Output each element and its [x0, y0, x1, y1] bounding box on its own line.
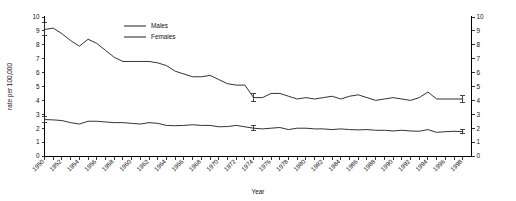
y-tick-label-left: 4	[36, 97, 40, 104]
y-tick-label-right: 1	[477, 138, 481, 145]
x-tick-label: 1974	[240, 157, 255, 172]
y-tick-label-right: 7	[477, 55, 481, 62]
y-tick-label-left: 3	[36, 111, 40, 118]
x-tick-label: 1998	[449, 157, 464, 172]
y-tick-label-left: 6	[36, 69, 40, 76]
x-tick-label: 1990	[379, 157, 394, 172]
x-tick-label: 1966	[170, 157, 185, 172]
x-tick-label: 1982	[309, 157, 324, 172]
x-tick-label: 1962	[135, 157, 150, 172]
x-tick-label: 1994	[414, 157, 429, 172]
legend-label-females: Females	[151, 33, 176, 40]
x-tick-label: 1960	[118, 157, 133, 172]
y-tick-label-left: 2	[36, 125, 40, 132]
x-tick-label: 1972	[222, 157, 237, 172]
x-axis-title: Year	[252, 188, 266, 195]
series-line-males	[45, 28, 463, 100]
y-tick-label-right: 6	[477, 69, 481, 76]
y-tick-label-right: 2	[477, 125, 481, 132]
y-tick-label-right: 10	[477, 13, 485, 20]
line-chart: 0011223344556677889910101950195219541956…	[0, 0, 516, 201]
x-tick-label: 1952	[48, 157, 63, 172]
x-tick-label: 1958	[100, 157, 115, 172]
x-tick-label: 1980	[292, 157, 307, 172]
y-tick-label-right: 4	[477, 97, 481, 104]
x-tick-label: 1976	[257, 157, 272, 172]
x-tick-label: 1956	[83, 157, 98, 172]
x-tick-label: 1988	[362, 157, 377, 172]
y-tick-label-left: 7	[36, 55, 40, 62]
chart-canvas: 0011223344556677889910101950195219541956…	[0, 0, 516, 201]
x-tick-label: 1970	[205, 157, 220, 172]
x-tick-label: 1986	[344, 157, 359, 172]
x-tick-label: 1984	[327, 157, 342, 172]
y-tick-label-right: 0	[477, 152, 481, 159]
y-tick-label-right: 5	[477, 83, 481, 90]
y-axis-title: rate per 100,000	[6, 63, 14, 110]
x-tick-label: 1954	[65, 157, 80, 172]
legend-label-males: Males	[151, 22, 168, 29]
y-tick-label-right: 9	[477, 27, 481, 34]
y-tick-label-left: 9	[36, 27, 40, 34]
x-tick-label: 1950	[31, 157, 46, 172]
y-tick-label-left: 5	[36, 83, 40, 90]
y-tick-label-left: 10	[32, 13, 40, 20]
x-tick-label: 1968	[187, 157, 202, 172]
x-tick-label: 1992	[397, 157, 412, 172]
y-tick-label-left: 1	[36, 138, 40, 145]
x-tick-label: 1996	[431, 157, 446, 172]
x-tick-label: 1964	[153, 157, 168, 172]
x-tick-label: 1978	[275, 157, 290, 172]
y-tick-label-right: 8	[477, 41, 481, 48]
y-tick-label-left: 8	[36, 41, 40, 48]
y-tick-label-right: 3	[477, 111, 481, 118]
